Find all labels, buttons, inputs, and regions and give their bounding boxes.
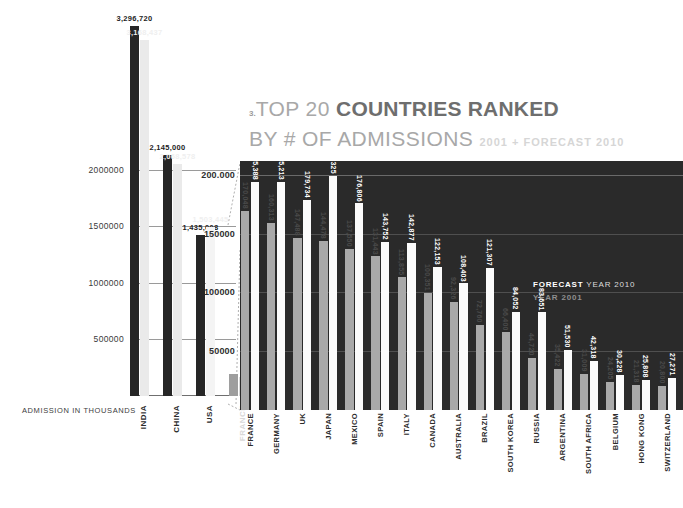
main-value-2001-south-korea: 66,400: [502, 308, 509, 331]
inset-bar-forecast-usa: 1,435,008: [196, 235, 205, 396]
main-value-2001-argentina: 35,422: [554, 344, 561, 367]
main-category-brazil: BRAZIL: [480, 413, 489, 443]
main-category-hong-kong: HONG KONG: [637, 413, 646, 463]
main-bar-forecast-russia: 83,651: [538, 312, 546, 410]
inset-category-usa: USA: [205, 405, 214, 423]
inset-value-forecast-china: 2,145,000: [149, 143, 185, 152]
inset-category-china: CHINA: [172, 405, 181, 433]
main-bar-forecast-uk: 179,734: [303, 200, 311, 410]
title-line-2: BY # OF ADMISSIONS 2001 + FORECAST 2010: [249, 126, 669, 155]
inset-value-2001-usa: 1,503,445: [192, 215, 228, 224]
main-category-uk: UK: [298, 413, 307, 425]
title-subtitle: 2001 + FORECAST 2010: [480, 136, 625, 148]
main-value-forecast-spain: 143,752: [382, 213, 389, 240]
main-tick-100000: 100000: [204, 287, 235, 297]
main-group-brazil: 72,760121,307BRAZIL: [476, 161, 502, 410]
main-bar-2001-switzerland: 20,800: [658, 386, 666, 410]
inset-chart-top3: ADMISSION IN THOUSANDS 500000 1000000 15…: [22, 14, 236, 410]
main-category-france: FRANCE: [246, 413, 255, 447]
main-value-2001-switzerland: 20,800: [659, 361, 666, 384]
main-group-spain: 131,443143,752SPAIN: [371, 161, 397, 410]
main-chart-panel: FORECAST YEAR 2010 YEAR 2001 50000 10000…: [240, 161, 683, 410]
main-bar-2001-germany: 160,313: [267, 223, 275, 410]
main-bar-2001-belgium: 24,205: [606, 382, 614, 410]
main-value-2001-japan: 144,478: [320, 212, 327, 239]
infographic-canvas: ADMISSION IN THOUSANDS 500000 1000000 15…: [0, 0, 683, 508]
main-category-belgium: BELGIUM: [611, 413, 620, 450]
main-group-uk: 147,488179,734UK: [293, 161, 319, 410]
main-bar-2001-australia: 92,326: [450, 302, 458, 410]
main-value-2001-canada: 100,351: [424, 264, 431, 291]
main-bar-2001-brazil: 72,760: [476, 325, 484, 410]
main-group-south-africa: 31,00942,318SOUTH AFRICA: [580, 161, 606, 410]
main-category-canada: CANADA: [428, 413, 437, 448]
main-value-forecast-japan: 200,325: [330, 147, 337, 174]
main-value-2001-france: 170,048: [242, 182, 249, 209]
main-bar-forecast-argentina: 51,530: [564, 350, 572, 410]
main-bar-forecast-brazil: 121,307: [486, 268, 494, 410]
main-bar-2001-canada: 100,351: [424, 293, 432, 410]
main-bar-2001-south-africa: 31,009: [580, 374, 588, 410]
main-bar-2001-spain: 131,443: [371, 256, 379, 410]
main-group-france: 170,048195,388FRANCE: [241, 161, 267, 410]
main-category-south-korea: SOUTH KOREA: [506, 413, 515, 473]
main-value-forecast-belgium: 30,228: [616, 350, 623, 373]
main-value-forecast-brazil: 121,307: [486, 239, 493, 266]
main-category-mexico: MEXICO: [350, 413, 359, 445]
main-group-australia: 92,326108,403AUSTRALIA: [450, 161, 476, 410]
main-bar-2001-argentina: 35,422: [554, 369, 562, 410]
main-bar-forecast-south-korea: 84,052: [512, 312, 520, 410]
main-category-argentina: ARGENTINA: [558, 413, 567, 461]
main-value-forecast-russia: 83,651: [538, 288, 545, 311]
title-line-1: 3.TOP 20 COUNTRIES RANKED: [249, 96, 669, 126]
main-value-forecast-australia: 108,403: [460, 255, 467, 282]
main-bar-forecast-switzerland: 27,271: [668, 378, 676, 410]
main-bar-forecast-hong-kong: 25,808: [642, 380, 650, 410]
inset-tick-1500000: 1500000: [89, 221, 124, 231]
main-tick-150000: 150000: [204, 229, 235, 239]
main-bar-forecast-italy: 142,877: [407, 243, 415, 410]
main-bar-forecast-australia: 108,403: [459, 283, 467, 410]
inset-tick-500000: 500000: [94, 334, 124, 344]
main-plot-area: 50000 100000 150000 200.000 170,048195,3…: [240, 161, 683, 410]
main-group-mexico: 137,550176,806MEXICO: [345, 161, 371, 410]
main-tick-200000: 200.000: [201, 170, 235, 180]
inset-tick-2000000: 2000000: [89, 165, 124, 175]
main-value-forecast-switzerland: 27,271: [669, 353, 676, 376]
main-tick-50000: 50000: [209, 346, 235, 356]
main-value-2001-russia: 44,720: [528, 333, 535, 356]
main-category-japan: JAPAN: [324, 413, 333, 440]
main-category-australia: AUSTRALIA: [454, 413, 463, 460]
main-value-2001-mexico: 137,550: [346, 220, 353, 247]
main-value-forecast-france: 195,388: [252, 153, 259, 180]
title-countries-ranked: COUNTRIES RANKED: [336, 97, 559, 120]
main-value-forecast-south-korea: 84,052: [512, 287, 519, 310]
title-top20: TOP 20: [256, 97, 336, 120]
inset-value-2001-china: 2,068,578: [159, 152, 195, 161]
main-value-forecast-italy: 142,877: [408, 214, 415, 241]
main-group-russia: 44,72083,651RUSSIA: [528, 161, 554, 410]
title-number: 3.: [249, 109, 256, 118]
main-value-forecast-south-africa: 42,318: [590, 336, 597, 359]
main-bar-2001-japan: 144,478: [319, 241, 327, 410]
main-category-switzerland: SWITZERLAND: [663, 413, 672, 472]
main-bar-2001-italy: 113,855: [398, 277, 406, 410]
inset-category-india: INDIA: [139, 405, 148, 429]
main-category-russia: RUSSIA: [532, 413, 541, 444]
inset-bar-2001-china: 2,068,578: [173, 164, 182, 396]
main-group-belgium: 24,20530,228BELGIUM: [606, 161, 632, 410]
main-value-2001-spain: 131,443: [372, 228, 379, 255]
main-group-italy: 113,855142,877ITALY: [398, 161, 424, 410]
main-group-hong-kong: 21,31825,808HONG KONG: [632, 161, 658, 410]
main-category-spain: SPAIN: [376, 413, 385, 437]
main-value-forecast-mexico: 176,806: [356, 175, 363, 202]
inset-bar-forecast-china: 2,145,000: [163, 155, 172, 396]
main-category-italy: ITALY: [402, 413, 411, 435]
main-bar-2001-south-korea: 66,400: [502, 332, 510, 410]
main-category-south-africa: SOUTH AFRICA: [584, 413, 593, 474]
main-group-japan: 144,478200,325JAPAN: [319, 161, 345, 410]
main-value-2001-south-africa: 31,009: [581, 349, 588, 372]
main-bar-forecast-belgium: 30,228: [616, 375, 624, 410]
main-bar-2001-france: 170,048: [241, 211, 249, 410]
main-bar-forecast-canada: 122,153: [433, 267, 441, 410]
